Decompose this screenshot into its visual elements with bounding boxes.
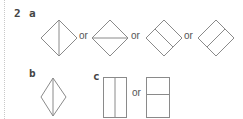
kite-shape xyxy=(41,78,66,116)
diamond-vertical-split-shape xyxy=(41,20,77,56)
diamond-midline-split-shape-2 xyxy=(198,20,234,56)
rectangle-horizontal-split-shape xyxy=(147,78,170,118)
diamond-midline-split-shape-1 xyxy=(146,20,182,56)
rectangle-vertical-split-shape xyxy=(104,78,127,118)
figures-canvas xyxy=(0,0,243,119)
diamond-horizontal-split-shape xyxy=(92,20,128,56)
